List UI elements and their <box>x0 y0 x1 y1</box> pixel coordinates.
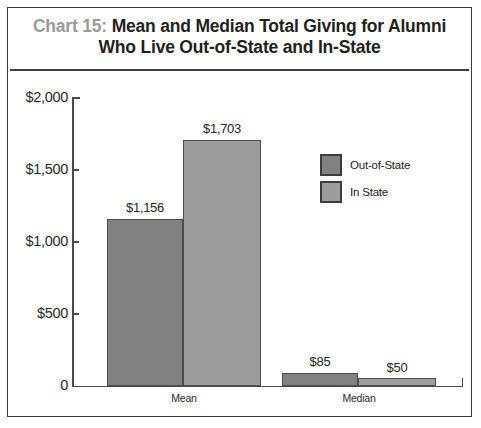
bar-mean-out-of-state[interactable] <box>107 219 183 387</box>
legend-item-out-of-state[interactable]: Out-of-State <box>320 151 410 178</box>
x-axis-label-mean: Mean <box>107 392 261 404</box>
legend: Out-of-State In State <box>320 151 410 205</box>
bar-value-median-out-of-state: $85 <box>282 354 358 369</box>
legend-swatch-out-of-state <box>320 154 342 176</box>
y-axis-label-0: 0 <box>10 377 68 393</box>
bar-mean-in-state[interactable] <box>183 140 261 386</box>
y-axis-label-500: $500 <box>10 305 68 321</box>
x-axis-right-cap <box>462 378 464 387</box>
y-tick-1000 <box>72 241 79 243</box>
bar-value-mean-out-of-state: $1,156 <box>107 200 183 215</box>
legend-label-in-state: In State <box>350 186 388 198</box>
legend-item-in-state[interactable]: In State <box>320 178 410 205</box>
y-tick-500 <box>72 313 79 315</box>
chart-frame: Chart 15: Mean and Median Total Giving f… <box>7 7 472 417</box>
y-tick-2000 <box>72 97 79 99</box>
legend-swatch-in-state <box>320 181 342 203</box>
bar-value-mean-in-state: $1,703 <box>183 121 261 136</box>
bar-median-out-of-state[interactable] <box>282 373 358 386</box>
y-tick-1500 <box>72 169 79 171</box>
x-axis-label-median: Median <box>282 392 436 404</box>
y-axis-label-1000: $1,000 <box>10 233 68 249</box>
bar-value-median-in-state: $50 <box>358 360 436 375</box>
y-axis-label-1500: $1,500 <box>10 161 68 177</box>
y-axis-label-2000: $2,000 <box>10 89 68 105</box>
legend-label-out-of-state: Out-of-State <box>350 159 410 171</box>
bar-median-in-state[interactable] <box>358 378 436 386</box>
plot-area: $2,000 $1,500 $1,000 $500 0 $1,156 $1,70… <box>8 8 471 416</box>
